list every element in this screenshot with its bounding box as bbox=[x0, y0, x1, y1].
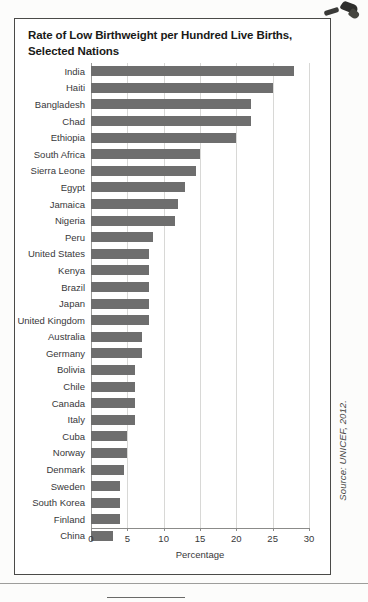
bar-ethiopia bbox=[91, 133, 236, 143]
bar-nigeria bbox=[91, 216, 175, 226]
bar-united-kingdom bbox=[91, 315, 149, 325]
category-label-bangladesh: Bangladesh bbox=[35, 99, 85, 110]
bar-italy bbox=[91, 415, 135, 425]
x-tick-label-0: 0 bbox=[88, 533, 93, 544]
chart-x-axis: Percentage 051015202530 bbox=[91, 528, 309, 558]
category-label-japan: Japan bbox=[59, 298, 85, 309]
chart-row: Ethiopia bbox=[91, 129, 309, 146]
category-label-cuba: Cuba bbox=[62, 431, 85, 442]
figure-container: Rate of Low Birthweight per Hundred Live… bbox=[14, 18, 331, 575]
bar-bangladesh bbox=[91, 99, 251, 109]
x-tick-label-5: 5 bbox=[125, 533, 130, 544]
bar-cuba bbox=[91, 431, 127, 441]
x-tick-5 bbox=[127, 528, 128, 531]
source-credit: Source: UNICEF, 2012. bbox=[337, 400, 348, 501]
chart-row: Brazil bbox=[91, 279, 309, 296]
bar-canada bbox=[91, 398, 135, 408]
chart-row: United Kingdom bbox=[91, 312, 309, 329]
category-label-sierra-leone: Sierra Leone bbox=[31, 165, 85, 176]
bar-sierra-leone bbox=[91, 166, 196, 176]
chart-row: Peru bbox=[91, 229, 309, 246]
bar-united-states bbox=[91, 249, 149, 259]
chart-row: Finland bbox=[91, 511, 309, 528]
category-label-sweden: Sweden bbox=[51, 481, 85, 492]
category-label-germany: Germany bbox=[46, 348, 85, 359]
x-tick-label-30: 30 bbox=[304, 533, 315, 544]
chart-row: Jamaica bbox=[91, 196, 309, 213]
bar-norway bbox=[91, 448, 127, 458]
chart-plot-inner: IndiaHaitiBangladeshChadEthiopiaSouth Af… bbox=[91, 63, 309, 529]
figure-title: Rate of Low Birthweight per Hundred Live… bbox=[28, 28, 320, 59]
category-label-peru: Peru bbox=[65, 232, 85, 243]
x-tick-0 bbox=[91, 528, 92, 531]
scan-artifact-part-c bbox=[348, 8, 361, 20]
chart-plot-area: IndiaHaitiBangladeshChadEthiopiaSouth Af… bbox=[91, 63, 316, 548]
category-label-bolivia: Bolivia bbox=[57, 364, 85, 375]
chart-row: South Africa bbox=[91, 146, 309, 163]
chart-row: Bolivia bbox=[91, 362, 309, 379]
bar-south-korea bbox=[91, 498, 120, 508]
x-tick-10 bbox=[164, 528, 165, 531]
x-axis-title: Percentage bbox=[176, 549, 225, 560]
category-label-italy: Italy bbox=[68, 414, 85, 425]
category-label-india: India bbox=[64, 66, 85, 77]
bar-finland bbox=[91, 514, 120, 524]
chart-row: Germany bbox=[91, 345, 309, 362]
bar-denmark bbox=[91, 465, 124, 475]
bar-south-africa bbox=[91, 149, 200, 159]
chart-row: Australia bbox=[91, 329, 309, 346]
category-label-brazil: Brazil bbox=[61, 282, 85, 293]
page-divider-rule bbox=[0, 583, 368, 584]
chart-row: Haiti bbox=[91, 80, 309, 97]
bar-australia bbox=[91, 332, 142, 342]
bar-sweden bbox=[91, 481, 120, 491]
bar-haiti bbox=[91, 83, 273, 93]
chart-row: Egypt bbox=[91, 179, 309, 196]
page-footer-rule bbox=[107, 597, 185, 598]
chart-row: Chad bbox=[91, 113, 309, 130]
bar-peru bbox=[91, 232, 153, 242]
x-tick-25 bbox=[273, 528, 274, 531]
category-label-chad: Chad bbox=[62, 116, 85, 127]
x-tick-30 bbox=[309, 528, 310, 531]
bar-egypt bbox=[91, 182, 185, 192]
category-label-australia: Australia bbox=[48, 331, 85, 342]
x-tick-label-25: 25 bbox=[267, 533, 278, 544]
x-tick-label-20: 20 bbox=[231, 533, 242, 544]
chart-row: Chile bbox=[91, 378, 309, 395]
bar-japan bbox=[91, 299, 149, 309]
category-label-denmark: Denmark bbox=[46, 464, 85, 475]
bar-kenya bbox=[91, 265, 149, 275]
category-label-jamaica: Jamaica bbox=[50, 199, 85, 210]
category-label-chile: Chile bbox=[63, 381, 85, 392]
chart-row: South Korea bbox=[91, 494, 309, 511]
bar-chile bbox=[91, 382, 135, 392]
chart-row: Kenya bbox=[91, 262, 309, 279]
category-label-haiti: Haiti bbox=[66, 82, 85, 93]
category-label-south-africa: South Africa bbox=[34, 149, 85, 160]
chart-row: Japan bbox=[91, 295, 309, 312]
chart-row: Sweden bbox=[91, 478, 309, 495]
category-label-united-kingdom: United Kingdom bbox=[17, 315, 85, 326]
chart-row: United States bbox=[91, 246, 309, 263]
category-label-nigeria: Nigeria bbox=[55, 215, 85, 226]
category-label-ethiopia: Ethiopia bbox=[51, 132, 85, 143]
category-label-egypt: Egypt bbox=[61, 182, 85, 193]
chart-row: Nigeria bbox=[91, 212, 309, 229]
chart-row: Italy bbox=[91, 411, 309, 428]
scan-artifact-part-a bbox=[324, 7, 340, 16]
x-tick-label-10: 10 bbox=[158, 533, 169, 544]
chart-row: Sierra Leone bbox=[91, 163, 309, 180]
bar-jamaica bbox=[91, 199, 178, 209]
bar-chad bbox=[91, 116, 251, 126]
category-label-south-korea: South Korea bbox=[32, 497, 85, 508]
bar-bolivia bbox=[91, 365, 135, 375]
chart-row: Norway bbox=[91, 445, 309, 462]
x-tick-15 bbox=[200, 528, 201, 531]
chart-bar-rows: IndiaHaitiBangladeshChadEthiopiaSouth Af… bbox=[91, 63, 309, 528]
bar-india bbox=[91, 66, 294, 76]
x-tick-20 bbox=[236, 528, 237, 531]
gridline-30 bbox=[309, 63, 310, 528]
category-label-united-states: United States bbox=[28, 248, 85, 259]
chart-row: Denmark bbox=[91, 461, 309, 478]
